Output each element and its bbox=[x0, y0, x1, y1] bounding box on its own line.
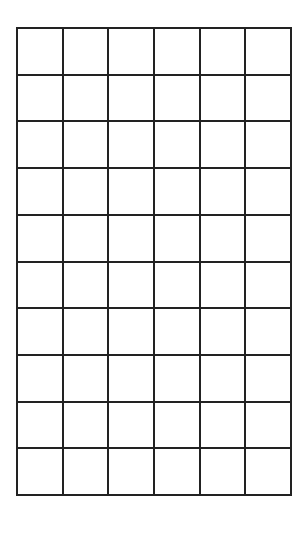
grid-cell bbox=[108, 121, 154, 168]
grid-cell bbox=[108, 402, 154, 449]
grid-cell bbox=[154, 75, 200, 122]
grid-cell bbox=[63, 215, 109, 262]
grid-cell bbox=[245, 308, 291, 355]
grid-cell bbox=[63, 355, 109, 402]
grid-cell bbox=[154, 448, 200, 495]
grid-cell bbox=[245, 448, 291, 495]
grid-cell bbox=[200, 168, 246, 215]
grid-cell bbox=[63, 121, 109, 168]
grid-cell bbox=[154, 262, 200, 309]
grid-cell bbox=[17, 121, 63, 168]
grid-cell bbox=[200, 215, 246, 262]
grid-cell bbox=[200, 448, 246, 495]
grid-cell bbox=[200, 308, 246, 355]
empty-grid bbox=[16, 27, 292, 496]
grid-cell bbox=[154, 168, 200, 215]
grid-cell bbox=[154, 215, 200, 262]
grid-cell bbox=[245, 75, 291, 122]
grid-cell bbox=[245, 215, 291, 262]
grid-cell bbox=[108, 28, 154, 75]
grid-cell bbox=[17, 262, 63, 309]
grid-cell bbox=[17, 355, 63, 402]
grid-cell bbox=[108, 355, 154, 402]
grid-cell bbox=[108, 448, 154, 495]
grid-cell bbox=[17, 448, 63, 495]
grid-cell bbox=[17, 28, 63, 75]
grid-cell bbox=[245, 121, 291, 168]
grid-cell bbox=[17, 168, 63, 215]
grid-cell bbox=[245, 168, 291, 215]
grid-cell bbox=[63, 308, 109, 355]
grid-cell bbox=[200, 121, 246, 168]
grid-cell bbox=[17, 308, 63, 355]
grid-cell bbox=[17, 215, 63, 262]
grid-cell bbox=[200, 28, 246, 75]
grid-cell bbox=[200, 355, 246, 402]
grid-cell bbox=[63, 168, 109, 215]
grid-cell bbox=[108, 215, 154, 262]
grid-cell bbox=[245, 355, 291, 402]
grid-cell bbox=[200, 262, 246, 309]
grid-cell bbox=[108, 75, 154, 122]
grid-cell bbox=[17, 402, 63, 449]
grid-cell bbox=[154, 308, 200, 355]
grid-cell bbox=[63, 262, 109, 309]
grid-cell bbox=[245, 28, 291, 75]
grid-cell bbox=[200, 75, 246, 122]
grid-cell bbox=[17, 75, 63, 122]
grid-cell bbox=[108, 262, 154, 309]
grid-cell bbox=[154, 121, 200, 168]
grid-cell bbox=[108, 308, 154, 355]
grid-cell bbox=[154, 28, 200, 75]
grid-cell bbox=[63, 402, 109, 449]
grid-cell bbox=[63, 448, 109, 495]
grid-cell bbox=[200, 402, 246, 449]
grid-cell bbox=[154, 355, 200, 402]
grid-cell bbox=[108, 168, 154, 215]
grid-cell bbox=[63, 75, 109, 122]
grid-cell bbox=[63, 28, 109, 75]
grid-cell bbox=[245, 402, 291, 449]
grid-cell bbox=[154, 402, 200, 449]
grid-cell bbox=[245, 262, 291, 309]
